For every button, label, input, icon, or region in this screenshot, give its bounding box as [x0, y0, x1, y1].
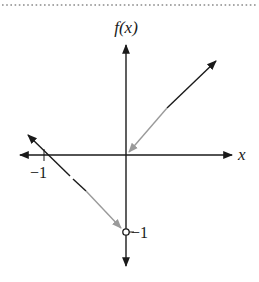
right-branch-light [129, 108, 167, 152]
open-circle-endpoint [123, 229, 129, 235]
y-axis-label: f(x) [114, 18, 138, 37]
function-graph: f(x) x −1 −1 [0, 0, 259, 282]
y-tick-label-neg1: −1 [131, 224, 148, 241]
left-branch-dark-2 [73, 179, 86, 191]
x-tick-label-neg1: −1 [30, 164, 47, 181]
left-branch-light [86, 191, 121, 228]
x-axis-label: x [237, 145, 246, 164]
right-branch-dark [167, 61, 216, 108]
